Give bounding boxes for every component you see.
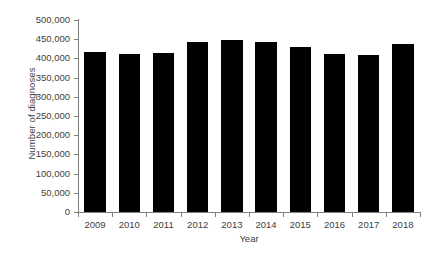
bar xyxy=(153,53,174,212)
bar-chart: Number of diagnoses 050,000100,000150,00… xyxy=(0,0,438,259)
x-tick-mark xyxy=(283,213,284,217)
x-tick-mark xyxy=(78,213,79,217)
y-tick-label: 300,000 xyxy=(10,92,70,102)
x-tick-mark xyxy=(386,213,387,217)
x-tick-mark xyxy=(317,213,318,217)
bar xyxy=(84,52,105,213)
bar xyxy=(187,42,208,212)
y-tick-label: 0 xyxy=(10,207,70,217)
x-tick-mark xyxy=(249,213,250,217)
y-tick-label: 500,000 xyxy=(10,15,70,25)
x-tick-mark xyxy=(181,213,182,217)
bar xyxy=(358,55,379,212)
y-tick-label: 200,000 xyxy=(10,130,70,140)
bar xyxy=(290,47,311,212)
x-tick-label: 2018 xyxy=(383,220,423,230)
y-tick-label: 450,000 xyxy=(10,34,70,44)
bar xyxy=(221,40,242,212)
bar xyxy=(119,54,140,212)
bar xyxy=(324,54,345,212)
y-tick-label: 250,000 xyxy=(10,111,70,121)
y-tick-label: 50,000 xyxy=(10,188,70,198)
x-axis-title: Year xyxy=(78,233,420,244)
bar xyxy=(392,44,413,212)
y-tick-label: 350,000 xyxy=(10,73,70,83)
y-tick-label: 400,000 xyxy=(10,53,70,63)
x-tick-mark xyxy=(420,213,421,217)
bars-layer xyxy=(78,20,420,212)
y-tick-label: 150,000 xyxy=(10,149,70,159)
y-tick-label: 100,000 xyxy=(10,169,70,179)
x-tick-mark xyxy=(215,213,216,217)
x-tick-mark xyxy=(112,213,113,217)
x-tick-mark xyxy=(146,213,147,217)
bar xyxy=(255,42,276,212)
x-tick-mark xyxy=(352,213,353,217)
